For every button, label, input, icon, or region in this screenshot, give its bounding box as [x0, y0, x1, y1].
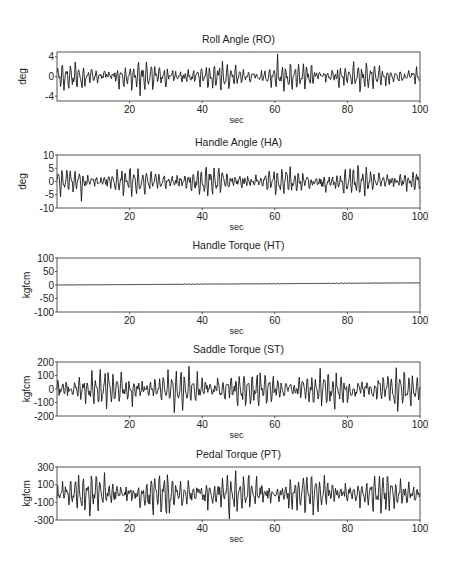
saddle-torque-xtick-label: 80: [342, 419, 354, 430]
saddle-torque-ytick-label: -100: [34, 397, 54, 408]
handle-torque-xtick-label: 80: [342, 315, 354, 326]
figure: Roll Angle (RO)40-420406080100secdegHand…: [0, 0, 455, 570]
handle-angle-xtick-label: 60: [269, 211, 281, 222]
handle-angle-ytick-label: 5: [48, 163, 54, 174]
handle-torque-ytick-label: -100: [34, 307, 54, 318]
handle-angle-xtick-label: 80: [342, 211, 354, 222]
pedal-torque-title: Pedal Torque (PT): [196, 448, 281, 460]
handle-angle-line: [57, 166, 420, 202]
roll-angle-xtick-label: 100: [412, 104, 429, 115]
pedal-torque-ytick-label: -100: [34, 497, 54, 508]
handle-angle-xtick-label: 40: [197, 211, 209, 222]
handle-angle-panel: Handle Angle (HA)1050-5-1020406080100sec…: [17, 136, 429, 232]
handle-torque-ytick-label: 0: [48, 280, 54, 291]
pedal-torque-ytick-label: -300: [34, 515, 54, 526]
handle-torque-ylabel: kgfcm: [21, 272, 32, 299]
handle-torque-panel: Handle Torque (HT)100500-50-100204060801…: [21, 239, 429, 336]
handle-angle-title: Handle Angle (HA): [195, 136, 282, 148]
roll-angle-ytick-label: 0: [48, 71, 54, 82]
pedal-torque-xtick-label: 60: [269, 523, 281, 534]
pedal-torque-ytick-label: 100: [37, 479, 54, 490]
saddle-torque-xtick-label: 60: [269, 419, 281, 430]
handle-torque-xtick-label: 60: [269, 315, 281, 326]
handle-torque-title: Handle Torque (HT): [192, 239, 284, 251]
saddle-torque-ytick-label: 0: [48, 384, 54, 395]
pedal-torque-panel: Pedal Torque (PT)300100-100-300204060801…: [21, 448, 429, 544]
pedal-torque-xtick-label: 40: [197, 523, 209, 534]
saddle-torque-xlabel: sec: [229, 430, 244, 440]
saddle-torque-xtick-label: 20: [124, 419, 136, 430]
roll-angle-ytick-label: -4: [45, 91, 54, 102]
pedal-torque-xtick-label: 100: [412, 523, 429, 534]
roll-angle-ytick-label: 4: [48, 51, 54, 62]
roll-angle-xtick-label: 40: [197, 104, 209, 115]
handle-torque-ytick-label: 50: [43, 266, 55, 277]
handle-angle-ytick-label: 0: [48, 176, 54, 187]
handle-torque-line: [57, 283, 420, 286]
handle-angle-ytick-label: 10: [43, 150, 55, 161]
roll-angle-title: Roll Angle (RO): [202, 33, 275, 45]
handle-angle-xtick-label: 100: [412, 211, 429, 222]
roll-angle-ylabel: deg: [17, 68, 28, 85]
roll-angle-line: [57, 54, 420, 96]
pedal-torque-line: [57, 471, 420, 519]
saddle-torque-ytick-label: 100: [37, 370, 54, 381]
saddle-torque-ylabel: kgfcm: [21, 376, 32, 403]
handle-torque-xtick-label: 40: [197, 315, 209, 326]
roll-angle-xtick-label: 20: [124, 104, 136, 115]
handle-torque-ytick-label: -50: [40, 293, 55, 304]
roll-angle-xtick-label: 60: [269, 104, 281, 115]
handle-torque-xtick-label: 20: [124, 315, 136, 326]
saddle-torque-ytick-label: -200: [34, 411, 54, 422]
roll-angle-xtick-label: 80: [342, 104, 354, 115]
roll-angle-panel: Roll Angle (RO)40-420406080100secdeg: [17, 33, 429, 125]
handle-angle-ytick-label: -5: [45, 189, 54, 200]
saddle-torque-ytick-label: 200: [37, 357, 54, 368]
roll-angle-xlabel: sec: [229, 115, 244, 125]
pedal-torque-ytick-label: 300: [37, 462, 54, 473]
pedal-torque-ylabel: kgfcm: [21, 480, 32, 507]
handle-angle-ylabel: deg: [17, 173, 28, 190]
pedal-torque-xtick-label: 80: [342, 523, 354, 534]
saddle-torque-title: Saddle Torque (ST): [193, 343, 284, 355]
saddle-torque-xtick-label: 100: [412, 419, 429, 430]
handle-angle-xtick-label: 20: [124, 211, 136, 222]
handle-angle-ytick-label: -10: [40, 203, 55, 214]
saddle-torque-line: [57, 366, 420, 412]
handle-angle-xlabel: sec: [229, 222, 244, 232]
panels: Roll Angle (RO)40-420406080100secdegHand…: [17, 33, 429, 544]
handle-torque-ytick-label: 100: [37, 253, 54, 264]
saddle-torque-panel: Saddle Torque (ST)2001000-100-2002040608…: [21, 343, 429, 440]
pedal-torque-xtick-label: 20: [124, 523, 136, 534]
saddle-torque-xtick-label: 40: [197, 419, 209, 430]
handle-torque-xtick-label: 100: [412, 315, 429, 326]
handle-torque-xlabel: sec: [229, 326, 244, 336]
pedal-torque-xlabel: sec: [229, 534, 244, 544]
